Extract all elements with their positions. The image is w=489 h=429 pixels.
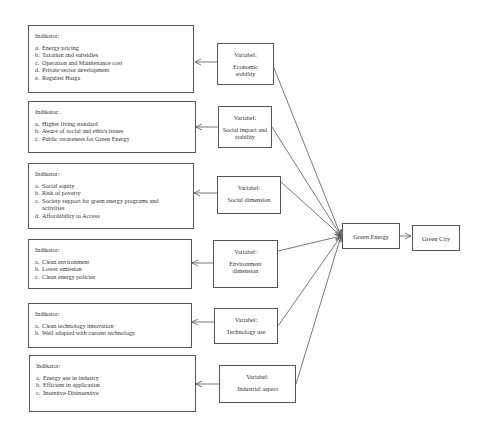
- item-marker: c.: [35, 59, 42, 67]
- indicator-box-social-impact: Indikator: a.Higher living standard b.Aw…: [28, 101, 196, 153]
- variable-heading: Variabel:: [215, 316, 277, 324]
- item-marker: b.: [35, 51, 42, 59]
- green-energy-label: Green Energy: [353, 233, 389, 240]
- variable-heading: Variabel:: [214, 248, 277, 256]
- indicator-item: c.Clean energy policies: [35, 273, 185, 281]
- indicator-item: b.Risk of poverty: [35, 189, 187, 197]
- indicator-item: b.Well adapted with current technology: [35, 329, 185, 337]
- variable-box-technology-use: Variabel: Technology use: [214, 308, 278, 344]
- item-text: Lower emission: [42, 265, 82, 273]
- indicator-item: a.Energy pricing: [35, 44, 187, 52]
- variable-box-economic-stability: Variabel: Economic stability: [217, 43, 274, 85]
- variable-box-industrial-aspect: Variabel: Industrial aspect: [219, 365, 296, 403]
- item-marker: b.: [36, 381, 43, 389]
- item-marker: b.: [35, 127, 42, 135]
- variable-name: Social impact and stability: [219, 126, 271, 141]
- item-text: Public awareness for Green Energy: [42, 135, 130, 143]
- green-city-label: Green City: [422, 235, 450, 242]
- indicator-list: a.Social equity b.Risk of poverty c.Soci…: [35, 182, 187, 220]
- item-text: Society support for green energy program…: [42, 197, 167, 212]
- indicator-item: b.Taxation and subsidies: [35, 51, 187, 59]
- indicator-list: a.Energy use in industry b.Efficient in …: [36, 374, 189, 397]
- variable-name: Economic stability: [218, 63, 273, 78]
- green-energy-node: Green Energy: [342, 223, 400, 249]
- variable-box-social-dimension: Variabel: Social dimension: [217, 176, 281, 214]
- item-marker: e.: [35, 74, 42, 82]
- indicator-item: d.Private sector development: [35, 66, 187, 74]
- indicator-item: c.Public awareness for Green Energy: [35, 135, 189, 143]
- item-text: Taxation and subsidies: [42, 51, 98, 59]
- variable-box-social-impact: Variabel: Social impact and stability: [218, 106, 272, 148]
- indicator-item: b.Aware of social and ethics issues: [35, 127, 189, 135]
- indicator-heading: Indikator:: [35, 170, 187, 178]
- indicator-box-social-dimension: Indikator: a.Social equity b.Risk of pov…: [28, 163, 194, 229]
- indicator-heading: Indikator:: [36, 362, 189, 370]
- green-city-node: Green City: [412, 225, 460, 251]
- indicator-box-economic: Indikator: a.Energy pricing b.Taxation a…: [28, 25, 194, 93]
- indicator-box-environment: Indikator: a.Clean environment b.Lower e…: [28, 239, 192, 289]
- indicator-list: a.Energy pricing b.Taxation and subsidie…: [35, 44, 187, 82]
- item-marker: b.: [35, 329, 42, 337]
- variable-heading: Variabel:: [219, 114, 271, 122]
- item-marker: a.: [36, 374, 43, 382]
- indicator-heading: Indikator:: [35, 32, 187, 40]
- indicator-list: a.Clean technology innovation b.Well ada…: [35, 322, 185, 337]
- variable-box-environment-dimension: Variabel: Environment dimension: [213, 240, 278, 288]
- indicator-heading: Indikator:: [35, 108, 189, 116]
- item-marker: c.: [35, 135, 42, 143]
- item-text: Private sector development: [42, 66, 109, 74]
- item-marker: a.: [35, 44, 42, 52]
- indicator-list: a.Higher living standard b.Aware of soci…: [35, 120, 189, 143]
- item-text: Affordability to Access: [42, 212, 100, 220]
- item-marker: d.: [35, 66, 42, 74]
- indicator-item: e.Regulasi Harga: [35, 74, 187, 82]
- indicator-item: a.Clean technology innovation: [35, 322, 185, 330]
- indicator-item: c.Society support for green energy progr…: [35, 197, 187, 212]
- variable-heading: Variabel:: [218, 51, 273, 59]
- item-marker: a.: [35, 258, 42, 266]
- item-text: Regulasi Harga: [42, 74, 80, 82]
- indicator-item: a.Clean environment: [35, 258, 185, 266]
- item-marker: c.: [35, 273, 42, 281]
- item-text: Energy pricing: [42, 44, 79, 52]
- variable-name: Technology use: [215, 328, 277, 336]
- indicator-item: c.Operation and Maintenance cost: [35, 59, 187, 67]
- item-marker: b.: [35, 265, 42, 273]
- item-text: Clean technology innovation: [42, 322, 114, 330]
- item-text: Energy use in industry: [43, 374, 99, 382]
- item-text: Efficient in application: [43, 381, 100, 389]
- item-marker: c.: [36, 389, 43, 397]
- indicator-item: a.Higher living standard: [35, 120, 189, 128]
- indicator-item: a.Energy use in industry: [36, 374, 189, 382]
- indicator-list: a.Clean environment b.Lower emission c.C…: [35, 258, 185, 281]
- item-marker: a.: [35, 182, 42, 190]
- indicator-item: c.Insentive-Disinsentive: [36, 389, 189, 397]
- item-text: Clean environment: [42, 258, 89, 266]
- indicator-box-technology: Indikator: a.Clean technology innovation…: [28, 303, 192, 348]
- indicator-heading: Indikator:: [35, 310, 185, 318]
- indicator-box-industrial: Indikator: a.Energy use in industry b.Ef…: [29, 355, 196, 412]
- item-text: Aware of social and ethics issues: [42, 127, 123, 135]
- item-marker: d.: [35, 212, 42, 220]
- item-marker: b.: [35, 189, 42, 197]
- item-text: Operation and Maintenance cost: [42, 59, 122, 67]
- item-marker: c.: [35, 197, 42, 212]
- indicator-item: b.Lower emission: [35, 265, 185, 273]
- item-text: Risk of poverty: [42, 189, 81, 197]
- variable-name: Industrial aspect: [220, 385, 295, 393]
- variable-heading: Variabel:: [218, 184, 280, 192]
- item-text: Well adapted with current technology: [42, 329, 135, 337]
- item-marker: a.: [35, 322, 42, 330]
- indicator-item: b.Efficient in application: [36, 381, 189, 389]
- variable-heading: Variabel:: [220, 373, 295, 381]
- item-text: Higher living standard: [42, 120, 98, 128]
- indicator-item: a.Social equity: [35, 182, 187, 190]
- item-marker: a.: [35, 120, 42, 128]
- variable-name: Environment dimension: [214, 260, 277, 275]
- item-text: Clean energy policies: [42, 273, 96, 281]
- item-text: Insentive-Disinsentive: [43, 389, 99, 397]
- item-text: Social equity: [42, 182, 74, 190]
- indicator-item: d.Affordability to Access: [35, 212, 187, 220]
- indicator-heading: Indikator:: [35, 246, 185, 254]
- variable-name: Social dimension: [218, 196, 280, 204]
